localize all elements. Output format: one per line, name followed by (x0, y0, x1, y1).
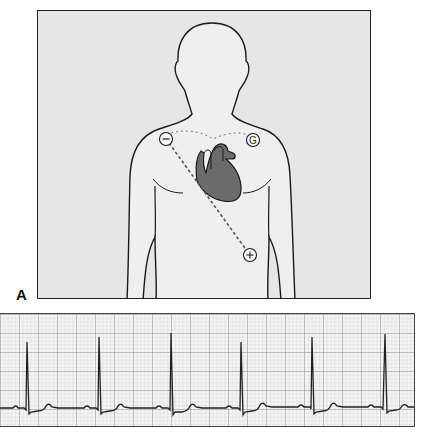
torso-diagram: G (37, 10, 371, 299)
diagram-panel-a: G (37, 10, 371, 299)
ecg-strip (0, 313, 415, 427)
negative-electrode (160, 133, 173, 146)
ground-electrode: G (247, 134, 260, 147)
ecg-grid (0, 314, 415, 427)
panel-label: A (16, 286, 27, 303)
positive-electrode (244, 249, 257, 262)
svg-text:G: G (249, 135, 257, 146)
ecg-trace-chart (0, 314, 415, 427)
